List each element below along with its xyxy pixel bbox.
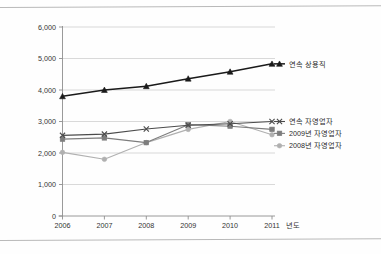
data-point-marker: [277, 131, 282, 136]
x-axis-tick-label: 2009: [180, 221, 196, 230]
data-point-marker: [277, 143, 282, 148]
x-axis-tick-label: 2010: [222, 221, 238, 230]
data-series: [60, 61, 275, 162]
series-line: [63, 64, 273, 96]
data-point-marker: [270, 132, 275, 137]
x-axis-tick-label: 2006: [55, 221, 71, 230]
y-axis-tick-label: 4,000: [38, 86, 56, 95]
plot-area: 01,0002,0003,0004,0005,0006,000 20062007…: [0, 0, 381, 254]
gridlines: [63, 27, 276, 185]
x-axis-tick-label: 2007: [96, 221, 112, 230]
legend-label: 2008년 자영업자: [289, 141, 342, 150]
data-point-marker: [102, 157, 107, 162]
y-axis-tick-label: 0: [52, 212, 56, 221]
series-1: [60, 61, 275, 99]
x-axis-tick-label: 2008: [138, 221, 154, 230]
legend-label: 연속 자영업자: [289, 117, 333, 126]
legend-label: 2009년 자영업자: [289, 129, 342, 138]
y-axis-tick-label: 6,000: [38, 23, 56, 32]
series-4: [60, 119, 274, 161]
y-axis-tick-label: 2,000: [38, 149, 56, 158]
x-axis-tick-labels: 200620072008200920102011: [55, 221, 280, 230]
y-axis-tick-label: 1,000: [38, 180, 56, 189]
chart-figure: 01,0002,0003,0004,0005,0006,000 20062007…: [0, 0, 381, 254]
x-axis-title: 년도: [286, 221, 300, 230]
y-axis-tick-label: 5,000: [38, 54, 56, 63]
line-chart: 01,0002,0003,0004,0005,0006,000 20062007…: [0, 0, 381, 254]
data-point-marker: [144, 140, 149, 145]
y-axis-tick-label: 3,000: [38, 117, 56, 126]
x-axis-tick-label: 2011: [264, 221, 279, 230]
legend-label: 연속 상용직: [289, 60, 326, 69]
data-point-marker: [270, 127, 275, 132]
data-point-marker: [186, 127, 191, 132]
data-point-marker: [60, 150, 65, 155]
chart-legend: 연속 상용직연속 자영업자2009년 자영업자2008년 자영업자: [274, 60, 342, 151]
y-axis-tick-labels: 01,0002,0003,0004,0005,0006,000: [38, 23, 56, 221]
